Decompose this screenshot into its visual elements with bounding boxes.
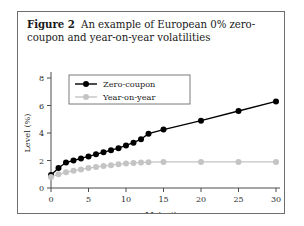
series-point (116, 145, 122, 151)
series-point (146, 131, 152, 137)
y-tick-label: 2 (39, 157, 44, 166)
series-point (78, 166, 84, 172)
y-axis-title: Level (%) (22, 113, 32, 152)
series-point (273, 98, 279, 104)
series-point (86, 153, 92, 159)
series-point (101, 149, 107, 155)
x-tick-label: 0 (48, 195, 53, 204)
series-point (138, 159, 144, 165)
series-point (101, 163, 107, 169)
series-point (56, 171, 62, 177)
figure-frame: Figure 2 An example of European 0% zero-… (17, 11, 285, 214)
series-point (93, 164, 99, 170)
y-tick-label: 6 (39, 102, 44, 111)
x-axis-title: Maturity (145, 209, 182, 213)
series-point (123, 161, 129, 167)
series-point (161, 159, 167, 165)
x-tick-label: 30 (271, 195, 281, 204)
chart-plot-area: 02468051015202530 Zero-couponYear-on-yea… (18, 48, 284, 213)
series-point (273, 159, 279, 165)
legend-swatch-marker (83, 94, 89, 100)
series-point (48, 174, 54, 180)
series-point (71, 168, 77, 174)
legend-entry-label: Zero-coupon (103, 79, 156, 89)
series-point (108, 162, 114, 168)
series-point (56, 165, 62, 171)
series-point (86, 165, 92, 171)
series-point (131, 140, 137, 146)
series-point (236, 159, 242, 165)
x-tick-label: 15 (158, 195, 168, 204)
series-point (116, 161, 122, 167)
legend-swatch-marker (83, 81, 89, 87)
chart-series (48, 98, 279, 180)
y-tick-label: 4 (39, 129, 44, 138)
series-point (131, 160, 137, 166)
y-tick-label: 8 (39, 74, 44, 83)
series-point (78, 155, 84, 161)
series-point (63, 160, 69, 166)
y-tick-label: 0 (39, 184, 44, 193)
figure-number-label: Figure 2 (27, 18, 75, 30)
series-point (123, 142, 129, 148)
series-point (138, 136, 144, 142)
series-point (146, 159, 152, 165)
x-tick-label: 10 (121, 195, 131, 204)
series-point (71, 158, 77, 164)
series-point (63, 169, 69, 175)
legend-entry-label: Year-on-year (102, 92, 155, 102)
series-point (93, 151, 99, 157)
series-point (236, 108, 242, 114)
x-tick-label: 25 (233, 195, 243, 204)
series-point (198, 118, 204, 124)
chart-legend: Zero-couponYear-on-year (69, 75, 190, 104)
x-tick-label: 20 (196, 195, 206, 204)
series-point (198, 159, 204, 165)
volatility-line-chart: 02468051015202530 Zero-couponYear-on-yea… (18, 48, 284, 213)
x-tick-label: 5 (86, 195, 91, 204)
series-point (108, 147, 114, 153)
figure-caption: Figure 2 An example of European 0% zero-… (27, 18, 279, 45)
series-point (161, 127, 167, 133)
